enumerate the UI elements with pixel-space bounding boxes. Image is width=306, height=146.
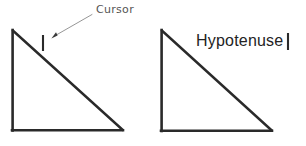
cursor-annotation-arrow xyxy=(51,15,92,39)
annotation-arrow-head-icon xyxy=(51,32,57,38)
cursor-annotation-label: Cursor xyxy=(96,3,134,16)
triangles-illustration xyxy=(0,0,306,146)
left-triangle-hypotenuse xyxy=(13,31,123,131)
hypotenuse-label: Hypotenuse xyxy=(196,32,283,50)
annotation-arrow-line xyxy=(55,15,93,37)
left-triangle-group xyxy=(12,30,123,131)
figure-canvas: Cursor Hypotenuse xyxy=(0,0,306,146)
